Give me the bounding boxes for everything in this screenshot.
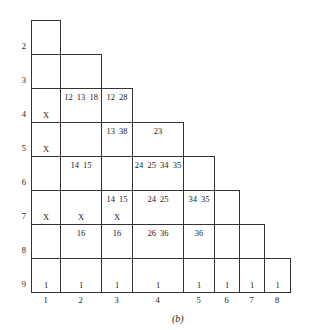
cell-pairs: 14 15 [102, 194, 132, 204]
cell-mark: X [32, 212, 60, 222]
table-cell: X [60, 190, 102, 225]
table-cell [31, 20, 61, 55]
cell-mark: 1 [61, 280, 101, 290]
cell-mark: 1 [240, 280, 264, 290]
row-label: 8 [14, 245, 26, 255]
table-cell: X [31, 122, 61, 157]
table-cell: 14 15 [60, 156, 102, 191]
table-cell: 23 [132, 122, 184, 157]
cell-mark: X [102, 212, 132, 222]
table-cell: 1 [101, 258, 133, 293]
table-cell [60, 122, 102, 157]
cell-mark: 1 [215, 280, 239, 290]
table-cell: X [31, 88, 61, 123]
cell-pairs: 12 13 18 [61, 92, 101, 102]
table-cell [101, 156, 133, 191]
column-label: 8 [264, 295, 290, 305]
cell-pairs: 23 [133, 126, 183, 136]
row-label: 6 [14, 177, 26, 187]
table-cell: 1 [132, 258, 184, 293]
column-label: 4 [132, 295, 183, 305]
table-cell: 16 [60, 224, 102, 259]
table-cell: 13 38 [101, 122, 133, 157]
cell-pairs: 14 15 [61, 160, 101, 170]
table-cell: X [31, 190, 61, 225]
row-label: 5 [14, 143, 26, 153]
column-label: 1 [31, 295, 60, 305]
column-label: 2 [60, 295, 101, 305]
cell-pairs: 13 38 [102, 126, 132, 136]
table-cell [214, 190, 240, 225]
table-cell: 16 [101, 224, 133, 259]
row-label: 9 [14, 279, 26, 289]
row-label: 4 [14, 109, 26, 119]
cell-pairs: 36 [184, 228, 214, 238]
table-cell: 24 25 34 35 [132, 156, 184, 191]
cell-mark: X [61, 212, 101, 222]
column-label: 3 [101, 295, 132, 305]
column-label: 6 [214, 295, 239, 305]
cell-pairs: 16 [61, 228, 101, 238]
table-cell: 1 [214, 258, 240, 293]
cell-mark: 1 [133, 280, 183, 290]
cell-mark: X [32, 144, 60, 154]
cell-pairs: 34 35 [184, 194, 214, 204]
table-cell: 1 [183, 258, 215, 293]
table-cell: 34 35 [183, 190, 215, 225]
table-cell: 12 13 18 [60, 88, 102, 123]
figure-caption: (b) [172, 313, 184, 324]
column-label: 5 [183, 295, 214, 305]
row-label: 2 [14, 41, 26, 51]
table-cell: 1 [60, 258, 102, 293]
cell-pairs: 12 28 [102, 92, 132, 102]
cell-pairs: 16 [102, 228, 132, 238]
table-cell: 1 [264, 258, 291, 293]
column-label: 7 [239, 295, 264, 305]
table-cell [60, 54, 102, 89]
table-cell: 1 [31, 258, 61, 293]
row-label: 3 [14, 75, 26, 85]
table-cell [31, 54, 61, 89]
table-cell [31, 156, 61, 191]
cell-mark: 1 [32, 280, 60, 290]
table-cell: 14 15X [101, 190, 133, 225]
table-cell: 1 [239, 258, 265, 293]
cell-pairs: 26 36 [133, 228, 183, 238]
cell-mark: 1 [102, 280, 132, 290]
table-cell [214, 224, 240, 259]
cell-pairs: 24 25 [133, 194, 183, 204]
cell-pairs: 24 25 34 35 [133, 160, 183, 170]
row-label: 7 [14, 211, 26, 221]
cell-mark: 1 [184, 280, 214, 290]
cell-mark: 1 [265, 280, 290, 290]
table-cell [183, 156, 215, 191]
table-cell: 12 28 [101, 88, 133, 123]
cell-mark: X [32, 110, 60, 120]
table-cell: 26 36 [132, 224, 184, 259]
table-cell: 36 [183, 224, 215, 259]
table-cell: 24 25 [132, 190, 184, 225]
table-cell [31, 224, 61, 259]
table-cell [239, 224, 265, 259]
